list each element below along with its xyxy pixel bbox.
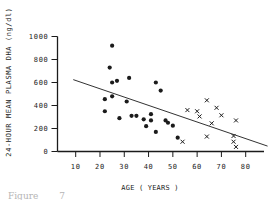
y-tick-label: 0 xyxy=(44,148,49,156)
data-point-x xyxy=(219,113,223,117)
data-point-circle xyxy=(159,88,163,92)
x-tick-label: 70 xyxy=(216,163,226,171)
data-point-circle xyxy=(142,117,146,121)
data-point-circle xyxy=(117,116,121,120)
data-point-circle xyxy=(171,124,175,128)
x-tick-label: 40 xyxy=(144,163,154,171)
data-point-circle xyxy=(154,130,158,134)
data-point-x xyxy=(232,140,236,144)
y-tick-label: 1000 xyxy=(29,33,49,41)
data-point-circle xyxy=(154,80,158,84)
x-tick-label: 50 xyxy=(168,163,178,171)
data-point-circle xyxy=(110,80,114,84)
trend-line xyxy=(73,80,267,146)
data-point-circle xyxy=(110,44,114,48)
data-point-circle xyxy=(134,114,138,118)
x-axis-label: AGE ( YEARS ) xyxy=(121,184,178,192)
data-point-circle xyxy=(166,121,170,125)
data-point-x xyxy=(210,121,214,125)
x-tick-label: 60 xyxy=(192,163,202,171)
x-tick-label: 80 xyxy=(241,163,251,171)
y-tick-label: 400 xyxy=(34,102,49,110)
data-point-x xyxy=(205,98,209,102)
data-point-circle xyxy=(108,65,112,69)
data-point-circle xyxy=(110,94,114,98)
figure-container: 020040060080010001020304050607080 24-HOU… xyxy=(0,0,279,200)
data-point-circle xyxy=(127,76,131,80)
y-axis-label: 24-HOUR MEAN PLASMA DHA (ng/dl) xyxy=(5,7,13,156)
data-point-circle xyxy=(129,114,133,118)
data-point-circle xyxy=(103,97,107,101)
data-point-x xyxy=(215,106,219,110)
data-point-circle xyxy=(144,124,148,128)
data-point-x xyxy=(195,109,199,113)
data-point-x xyxy=(185,108,189,112)
data-point-circle xyxy=(176,136,180,140)
data-point-x xyxy=(234,145,238,149)
data-point-x xyxy=(181,140,185,144)
figure-caption: Figure 7 xyxy=(8,191,65,200)
x-tick-label: 30 xyxy=(119,163,129,171)
y-tick-label: 600 xyxy=(34,79,49,87)
y-tick-label: 800 xyxy=(34,56,49,64)
data-point-circle xyxy=(149,112,153,116)
data-point-circle xyxy=(125,99,129,103)
x-tick-label: 10 xyxy=(71,163,81,171)
data-point-x xyxy=(205,135,209,139)
data-point-circle xyxy=(149,118,153,122)
x-tick-label: 20 xyxy=(95,163,105,171)
y-tick-label: 200 xyxy=(34,125,49,133)
data-point-x xyxy=(234,118,238,122)
scatter-plot-svg: 020040060080010001020304050607080 xyxy=(0,0,279,200)
data-point-circle xyxy=(103,109,107,113)
data-point-circle xyxy=(115,79,119,83)
data-point-x xyxy=(198,114,202,118)
